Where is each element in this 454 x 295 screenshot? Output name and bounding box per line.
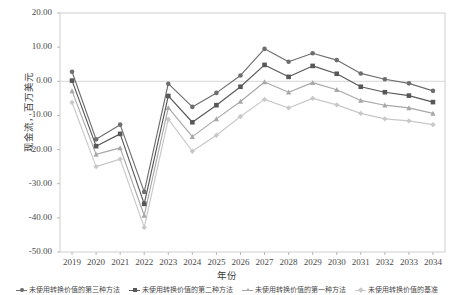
- series-3: [69, 79, 435, 217]
- series-line: [72, 82, 433, 216]
- data-point-marker: [310, 80, 315, 85]
- data-point-marker: [334, 58, 339, 63]
- series-line: [72, 98, 433, 227]
- data-point-marker: [407, 93, 412, 98]
- plot-area: [0, 0, 454, 295]
- data-point-marker: [214, 91, 219, 96]
- data-point-marker: [310, 51, 315, 56]
- legend-diamond-icon: [355, 287, 366, 294]
- data-point-marker: [310, 96, 315, 101]
- data-point-marker: [190, 105, 195, 110]
- data-point-marker: [118, 122, 123, 127]
- legend-item-4[interactable]: 未使用转换价值的基准: [355, 286, 438, 294]
- data-point-marker: [383, 77, 388, 82]
- data-point-marker: [358, 111, 363, 116]
- legend-item-label: 未使用转换价值的基准: [368, 286, 438, 294]
- data-point-marker: [262, 63, 267, 68]
- data-point-marker: [286, 75, 291, 80]
- line-chart: 现金流，百万美元 年份 20.0010.000.00-10.00-20.00-3…: [0, 0, 454, 295]
- data-point-marker: [286, 60, 291, 65]
- data-point-marker: [190, 120, 195, 125]
- data-point-marker: [118, 145, 123, 150]
- data-point-marker: [214, 103, 219, 108]
- data-point-marker: [118, 132, 123, 137]
- data-point-marker: [70, 69, 75, 74]
- series-4: [69, 96, 435, 230]
- data-point-marker: [142, 190, 147, 195]
- data-point-marker: [431, 89, 436, 94]
- legend-item-label: 未使用转换价值的第一种方法: [255, 286, 346, 294]
- data-point-marker: [431, 100, 436, 105]
- legend-square-icon: [129, 287, 140, 294]
- data-point-marker: [70, 78, 75, 83]
- data-point-marker: [238, 73, 243, 78]
- data-point-marker: [262, 47, 267, 52]
- data-point-marker: [94, 137, 99, 142]
- legend-item-1[interactable]: 未使用转换价值的第三种方法: [16, 286, 120, 294]
- data-point-marker: [69, 100, 74, 105]
- data-point-marker: [406, 118, 411, 123]
- series-2: [70, 63, 436, 207]
- data-point-marker: [430, 122, 435, 127]
- plot-frame: [60, 13, 445, 252]
- data-point-marker: [142, 213, 147, 218]
- data-point-marker: [407, 81, 412, 86]
- data-point-marker: [117, 156, 122, 161]
- data-point-marker: [166, 94, 171, 99]
- legend-item-2[interactable]: 未使用转换价值的第二种方法: [129, 286, 233, 294]
- data-point-marker: [358, 71, 363, 76]
- data-point-marker: [383, 90, 388, 95]
- data-point-marker: [334, 71, 339, 76]
- legend-item-label: 未使用转换价值的第二种方法: [142, 286, 233, 294]
- data-point-marker: [93, 164, 98, 169]
- data-point-marker: [142, 225, 147, 230]
- data-point-marker: [334, 102, 339, 107]
- chart-legend: 未使用转换价值的第三种方法未使用转换价值的第二种方法未使用转换价值的第一种方法未…: [0, 286, 454, 295]
- series-line: [72, 65, 433, 204]
- data-point-marker: [286, 105, 291, 110]
- data-point-marker: [166, 81, 171, 86]
- data-point-marker: [238, 84, 243, 89]
- legend-item-label: 未使用转换价值的第三种方法: [29, 286, 120, 294]
- data-point-marker: [310, 64, 315, 69]
- data-point-marker: [358, 84, 363, 89]
- data-point-marker: [69, 88, 74, 93]
- data-point-marker: [142, 202, 147, 207]
- series-line: [72, 49, 433, 192]
- legend-item-3[interactable]: 未使用转换价值的第一种方法: [242, 286, 346, 294]
- data-point-marker: [94, 144, 99, 149]
- legend-circle-icon: [16, 287, 27, 294]
- legend-triangle-icon: [242, 287, 253, 294]
- data-point-marker: [382, 116, 387, 121]
